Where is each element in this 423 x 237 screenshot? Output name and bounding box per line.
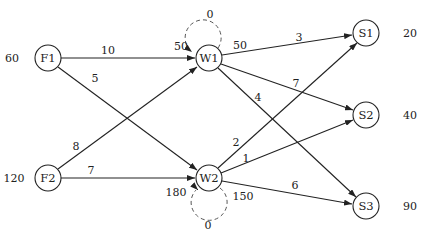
node-f1-label: F1 (40, 51, 55, 65)
f1-supply: 60 (5, 52, 19, 65)
node-w2: W2 (196, 165, 222, 191)
edge-w2-s2 (221, 120, 353, 173)
s2-demand: 40 (403, 109, 417, 122)
w2-cap-in: 180 (166, 186, 187, 199)
node-w1: W1 (196, 45, 222, 71)
w1-cap-out: 50 (233, 39, 247, 52)
w1-loop-cost: 0 (207, 8, 214, 21)
cost-w1-s1: 3 (296, 31, 303, 44)
edge-w2-s1 (218, 43, 357, 168)
node-w1-label: W1 (199, 51, 218, 65)
node-s1-label: S1 (358, 26, 373, 40)
cost-w2-s2: 1 (243, 152, 250, 165)
cost-f2-w1: 8 (73, 140, 80, 153)
node-f2: F2 (35, 165, 61, 191)
f2-supply: 120 (4, 172, 25, 185)
w2-cap-out: 150 (233, 190, 254, 203)
cost-w2-s1: 2 (233, 136, 240, 149)
node-f2-label: F2 (40, 171, 55, 185)
w2-loop-cost: 0 (205, 219, 212, 232)
node-s3: S3 (353, 193, 379, 219)
cost-w1-s3: 4 (255, 91, 262, 104)
cost-f2-w2: 7 (88, 164, 95, 177)
loop-w2-arrow-icon (194, 186, 198, 190)
edge-w1-s2 (221, 64, 353, 110)
node-s2: S2 (353, 102, 379, 128)
network-flow-diagram: 10 5 8 7 3 7 4 2 1 6 50 50 0 180 150 0 6… (0, 0, 423, 237)
s1-demand: 20 (403, 27, 417, 40)
node-f1: F1 (35, 45, 61, 71)
node-s2-label: S2 (358, 108, 373, 122)
node-s3-label: S3 (358, 199, 373, 213)
node-s1: S1 (353, 20, 379, 46)
loop-w2 (191, 188, 227, 220)
node-w2-label: W2 (199, 171, 218, 185)
cost-w2-s3: 6 (292, 179, 299, 192)
cost-f1-w1: 10 (101, 44, 115, 57)
w1-cap-in: 50 (174, 40, 188, 53)
cost-w1-s2: 7 (293, 77, 300, 90)
s3-demand: 90 (403, 200, 417, 213)
cost-f1-w2: 5 (92, 72, 99, 85)
